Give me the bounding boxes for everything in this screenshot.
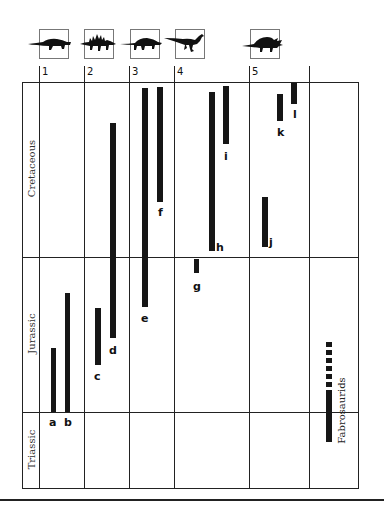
range-bar-d — [110, 123, 116, 338]
fabrosaurids-dash — [326, 366, 332, 371]
ankylosaur-icon — [27, 32, 73, 56]
grid-divider-4 — [174, 82, 175, 489]
page-rule — [0, 499, 384, 501]
fabrosaurids-dash — [326, 350, 332, 355]
bar-label-k: k — [277, 127, 284, 138]
bar-label-f: f — [158, 207, 163, 218]
period-label-triassic: Triassic — [26, 410, 37, 490]
range-bar-a — [51, 348, 56, 412]
range-bar-i — [223, 86, 229, 144]
column-number-2: 2 — [87, 67, 93, 77]
column-tick-6 — [309, 66, 310, 82]
bar-label-l: l — [293, 109, 297, 120]
grid-divider-6 — [309, 82, 310, 489]
fabrosaurids-dash — [326, 374, 332, 379]
nodosaur-icon — [119, 32, 163, 56]
period-label-cretaceous: Cretaceous — [26, 129, 37, 209]
column-number-3: 3 — [132, 67, 138, 77]
boundary-jurassic-triassic — [22, 412, 359, 413]
fabrosaurids-label: Fabrosaurids — [336, 377, 347, 443]
bar-label-i: i — [224, 151, 228, 162]
range-bar-f — [157, 87, 163, 202]
bar-label-a: a — [49, 417, 56, 428]
fabrosaurids-dash — [326, 342, 332, 347]
column-tick-5 — [249, 66, 250, 82]
bar-label-h: h — [216, 242, 224, 253]
ceratopsian-icon — [241, 34, 285, 56]
stegosaur-icon — [79, 30, 117, 56]
range-bar-c — [95, 308, 101, 365]
range-bar-h — [209, 92, 215, 251]
bar-label-c: c — [94, 371, 101, 382]
range-bar-e — [142, 88, 148, 307]
column-number-5: 5 — [252, 67, 258, 77]
period-label-jurassic: Jurassic — [26, 294, 37, 374]
column-tick-4 — [174, 66, 175, 82]
fabrosaurids-dash — [326, 358, 332, 363]
bar-label-g: g — [193, 281, 201, 292]
range-bar-b — [65, 293, 70, 412]
bar-label-b: b — [64, 417, 72, 428]
grid-divider-2 — [84, 82, 85, 489]
column-number-1: 1 — [42, 67, 48, 77]
range-bar-k — [277, 94, 283, 121]
column-tick-2 — [84, 66, 85, 82]
ornithopod-icon — [163, 30, 207, 56]
range-bar-j — [262, 197, 268, 247]
range-bar-l — [291, 83, 297, 104]
grid-divider-3 — [129, 82, 130, 489]
column-tick-1 — [39, 66, 40, 82]
column-number-4: 4 — [177, 67, 183, 77]
column-tick-3 — [129, 66, 130, 82]
grid-divider-5 — [249, 82, 250, 489]
range-bar-g — [194, 259, 199, 273]
bar-label-e: e — [141, 313, 148, 324]
range-bar-fabrosaurids — [326, 390, 332, 442]
fabrosaurids-dash — [326, 382, 332, 387]
bar-label-j: j — [269, 237, 273, 248]
boundary-cretaceous-jurassic — [22, 257, 359, 258]
grid-divider-period — [39, 82, 40, 489]
bar-label-d: d — [109, 345, 117, 356]
